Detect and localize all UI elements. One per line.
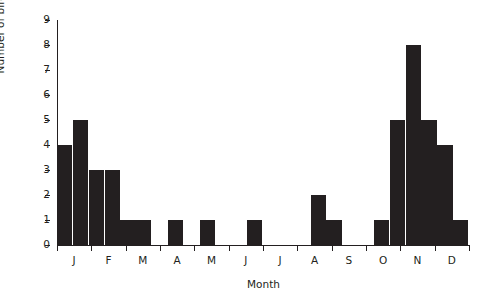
x-axis-tick-labels: JFMAMJJASOND: [57, 254, 470, 274]
x-tick-mark: [229, 246, 230, 251]
x-tick-label-11: D: [448, 254, 456, 266]
bar-series: [57, 20, 469, 245]
bar: [136, 220, 151, 245]
bar: [406, 45, 421, 245]
y-tick-mark: [45, 170, 50, 171]
y-tick-label-4: 4: [24, 139, 50, 149]
y-tick-mark: [45, 70, 50, 71]
bar: [200, 220, 215, 245]
bar: [105, 170, 120, 245]
bar: [311, 195, 326, 245]
y-tick-label-1: 1: [24, 214, 50, 224]
x-tick-label-10: N: [414, 254, 422, 266]
bar: [437, 145, 452, 245]
bar: [374, 220, 389, 245]
bar: [247, 220, 262, 245]
y-tick-mark: [45, 195, 50, 196]
x-tick-mark: [332, 246, 333, 251]
y-tick-mark: [45, 145, 50, 146]
x-tick-mark: [400, 246, 401, 251]
y-tick-label-6: 6: [24, 89, 50, 99]
y-axis-tick-labels: 0123456789: [22, 20, 50, 246]
y-tick-mark: [45, 120, 50, 121]
bar: [390, 120, 405, 245]
x-tick-label-9: O: [379, 254, 387, 266]
chart-figure: Number of birds 0123456789 JFMAMJJASOND …: [0, 0, 482, 305]
x-tick-label-4: M: [207, 254, 216, 266]
bar: [57, 145, 72, 245]
y-tick-mark: [45, 220, 50, 221]
y-tick-label-0: 0: [24, 239, 50, 249]
x-tick-mark: [263, 246, 264, 251]
x-tick-label-6: J: [279, 254, 282, 266]
x-tick-mark: [469, 246, 470, 251]
x-tick-label-0: J: [73, 254, 76, 266]
bar: [453, 220, 468, 245]
x-tick-label-2: M: [138, 254, 147, 266]
x-axis-ticks: [57, 246, 470, 252]
x-axis-title: Month: [57, 278, 470, 290]
x-tick-mark: [126, 246, 127, 251]
y-tick-label-5: 5: [24, 114, 50, 124]
x-tick-mark: [194, 246, 195, 251]
plot-area: [57, 20, 469, 245]
y-tick-label-9: 9: [24, 14, 50, 24]
x-tick-label-3: A: [174, 254, 181, 266]
x-tick-mark: [91, 246, 92, 251]
y-tick-mark: [45, 20, 50, 21]
x-tick-label-1: F: [105, 254, 111, 266]
y-tick-mark: [45, 45, 50, 46]
y-tick-label-7: 7: [24, 64, 50, 74]
x-tick-mark: [435, 246, 436, 251]
x-tick-mark: [297, 246, 298, 251]
bar: [168, 220, 183, 245]
y-tick-label-3: 3: [24, 164, 50, 174]
x-tick-label-7: A: [311, 254, 318, 266]
y-tick-label-8: 8: [24, 39, 50, 49]
y-tick-mark: [45, 245, 50, 246]
x-tick-mark: [160, 246, 161, 251]
bar: [89, 170, 104, 245]
y-axis-title: Number of birds: [0, 0, 6, 96]
bar: [421, 120, 436, 245]
bar: [120, 220, 135, 245]
bar: [73, 120, 88, 245]
x-tick-label-5: J: [244, 254, 247, 266]
y-tick-mark: [45, 95, 50, 96]
x-tick-mark: [366, 246, 367, 251]
x-tick-mark: [57, 246, 58, 251]
bar: [326, 220, 341, 245]
y-tick-label-2: 2: [24, 189, 50, 199]
x-tick-label-8: S: [345, 254, 352, 266]
